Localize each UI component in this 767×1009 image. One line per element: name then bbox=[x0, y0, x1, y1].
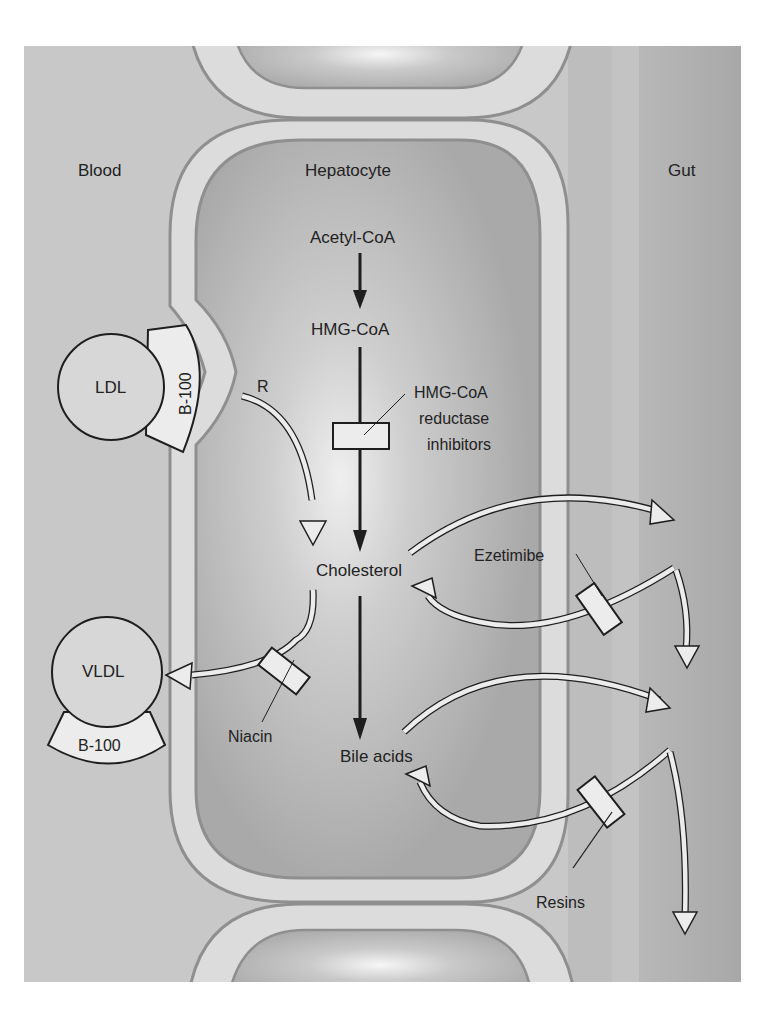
ldl-b100-label: B-100 bbox=[177, 372, 194, 415]
niacin-label: Niacin bbox=[228, 728, 272, 745]
vldl-b100-label: B-100 bbox=[78, 737, 121, 754]
statin-label-line1: HMG-CoA bbox=[414, 384, 488, 401]
lipid-pathway-diagram: Blood Hepatocyte Gut Acetyl-CoA HMG-CoA … bbox=[0, 0, 767, 1009]
statin-label-line3: inhibitors bbox=[427, 436, 491, 453]
blood-label: Blood bbox=[78, 161, 121, 180]
ldl-receptor-label: R bbox=[257, 378, 269, 395]
acetyl-coa-label: Acetyl-CoA bbox=[310, 228, 396, 247]
vldl-particle: VLDL B-100 bbox=[48, 617, 165, 764]
statin-label-line2: reductase bbox=[419, 410, 489, 427]
top-neighbor-cell bbox=[188, 20, 575, 118]
bile-acids-label: Bile acids bbox=[340, 747, 413, 766]
ezetimibe-label: Ezetimibe bbox=[474, 547, 544, 564]
hepatocyte-label: Hepatocyte bbox=[305, 161, 391, 180]
vldl-label: VLDL bbox=[82, 662, 125, 681]
resins-label: Resins bbox=[536, 894, 585, 911]
bottom-neighbor-cell bbox=[188, 904, 575, 1000]
ldl-label: LDL bbox=[95, 378, 126, 397]
gut-label: Gut bbox=[668, 161, 696, 180]
gut-wall-strip bbox=[612, 46, 639, 982]
cholesterol-label: Cholesterol bbox=[316, 561, 402, 580]
hmg-coa-label: HMG-CoA bbox=[311, 320, 390, 339]
